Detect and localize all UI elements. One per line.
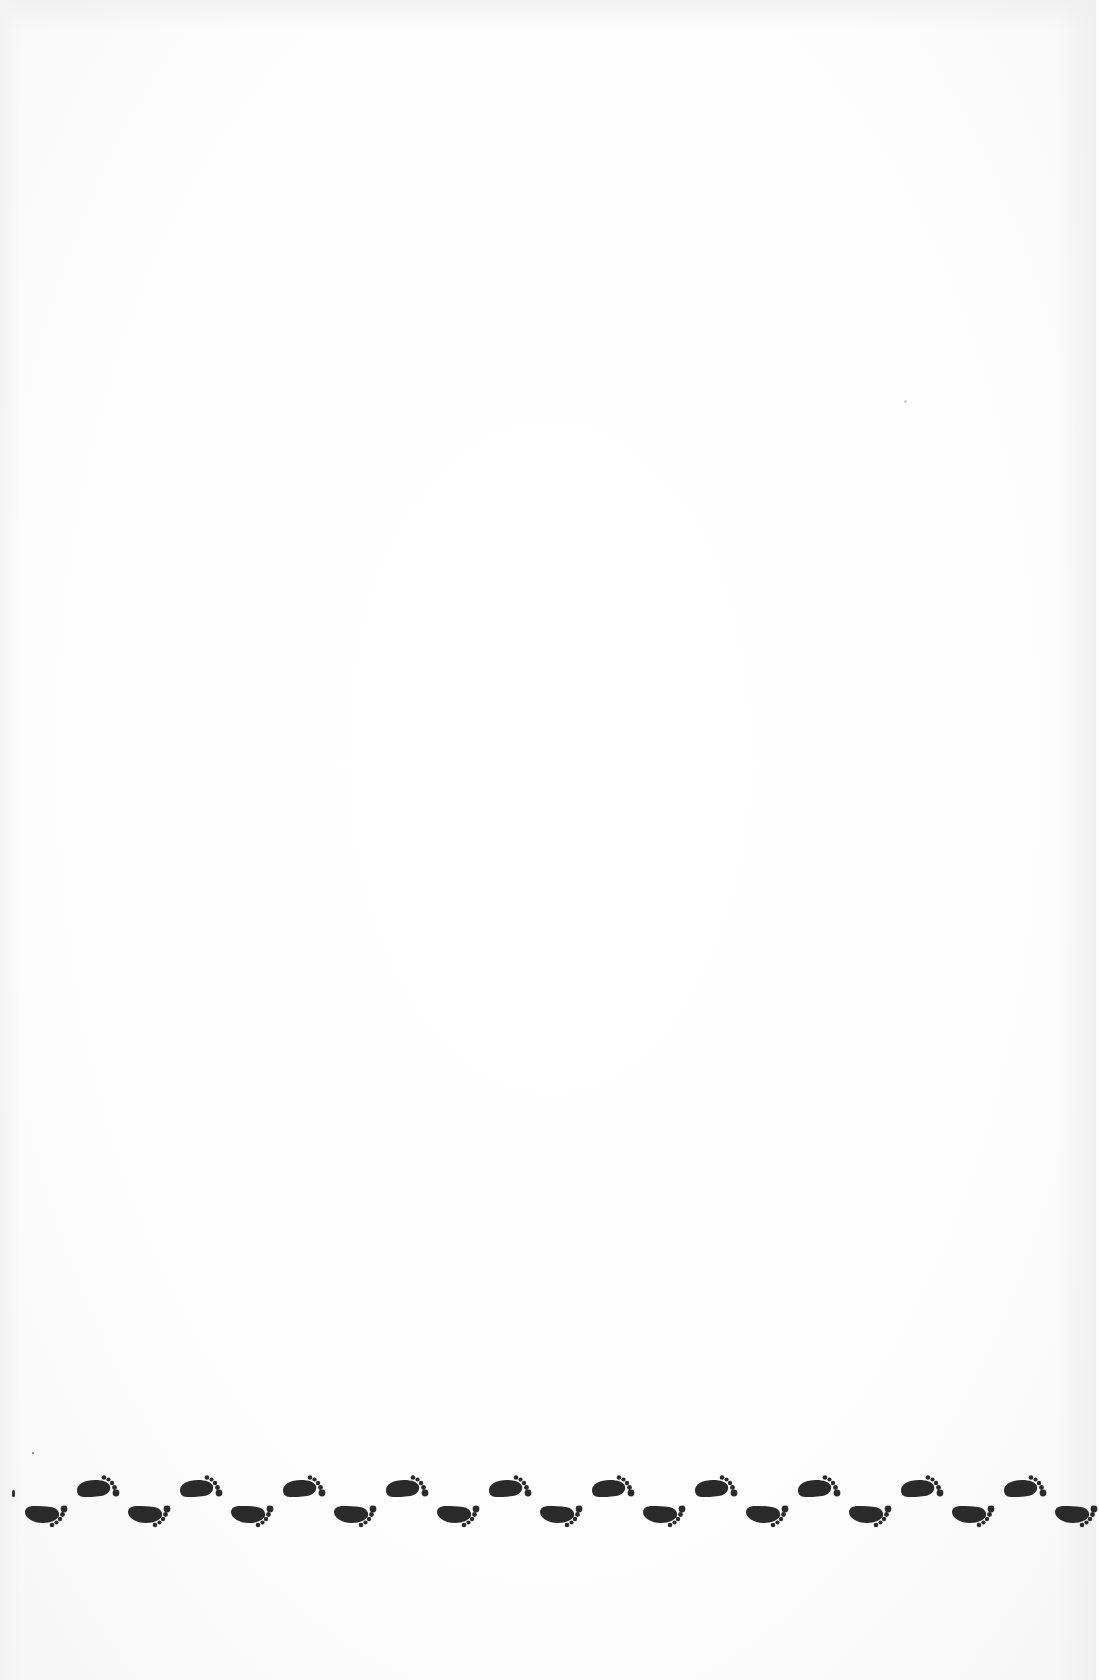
footprint-icon [744,1500,790,1530]
footprint-icon [641,1500,687,1530]
footprint-icon [899,1473,945,1503]
footprint-icon [693,1473,739,1503]
footprint-icon [847,1500,893,1530]
footprint-icon [796,1473,842,1503]
footprint-icon [384,1473,430,1503]
footprint-icon [23,1500,69,1530]
footprint-icon [590,1473,636,1503]
footprint-icon [178,1473,224,1503]
footprint-icon [75,1473,121,1503]
footprint-border [0,1460,1096,1540]
footprint-icon [435,1500,481,1530]
footprint-icon [1002,1473,1048,1503]
page-left-shadow [0,0,20,1680]
footprint-icon [950,1500,996,1530]
footprint-icon [487,1473,533,1503]
page-speck [904,400,907,403]
footprint-icon [126,1500,172,1530]
footprint-icon [281,1473,327,1503]
footprint-icon [229,1500,275,1530]
page-top-shadow [0,0,1096,30]
page-right-shadow [1056,0,1096,1680]
footprint-icon [538,1500,584,1530]
footprint-icon [332,1500,378,1530]
page-speck [32,1452,34,1454]
footprint-icon [1053,1500,1099,1530]
